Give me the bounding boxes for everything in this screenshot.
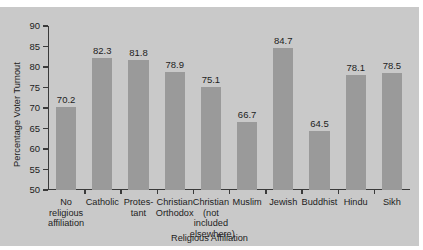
x-tick — [84, 189, 85, 194]
y-tick-label: 65 — [4, 124, 40, 134]
x-axis-label: Religious Affiliation — [0, 233, 419, 243]
x-tick — [338, 189, 339, 194]
y-tick — [43, 189, 48, 190]
bar-value-label: 84.7 — [261, 36, 305, 46]
bar[interactable] — [346, 75, 366, 190]
bar[interactable] — [309, 131, 329, 190]
x-category-label: Sikh — [371, 197, 413, 208]
bar[interactable] — [382, 73, 402, 190]
x-tick — [301, 189, 302, 194]
bar[interactable] — [201, 87, 221, 190]
bar[interactable] — [165, 72, 185, 190]
x-tick — [157, 189, 158, 194]
bar-value-label: 78.5 — [370, 61, 414, 71]
bar-value-label: 75.1 — [189, 75, 233, 85]
bar[interactable] — [273, 48, 293, 190]
y-tick — [43, 46, 48, 47]
y-tick-label: 85 — [4, 42, 40, 52]
x-tick — [374, 189, 375, 194]
y-tick-label: 75 — [4, 83, 40, 93]
y-axis-line — [48, 26, 49, 190]
y-tick — [43, 107, 48, 108]
bar[interactable] — [128, 60, 148, 190]
chart-figure: Percentage Voter Turnout 505560657075808… — [0, 7, 419, 246]
y-tick — [43, 128, 48, 129]
y-tick — [43, 169, 48, 170]
y-tick-label: 60 — [4, 144, 40, 154]
bar-value-label: 64.5 — [298, 119, 342, 129]
y-tick-label: 50 — [4, 185, 40, 195]
bar[interactable] — [56, 107, 76, 190]
bar-value-label: 70.2 — [44, 95, 88, 105]
y-tick-label: 70 — [4, 103, 40, 113]
bar-value-label: 81.8 — [117, 48, 161, 58]
bar[interactable] — [237, 122, 257, 190]
y-tick — [43, 148, 48, 149]
y-tick — [43, 66, 48, 67]
y-tick — [43, 87, 48, 88]
y-tick-label: 80 — [4, 62, 40, 72]
x-tick — [193, 189, 194, 194]
x-tick — [120, 189, 121, 194]
y-tick — [43, 25, 48, 26]
bar[interactable] — [92, 58, 112, 190]
bar-value-label: 78.9 — [153, 60, 197, 70]
y-tick-label: 90 — [4, 21, 40, 31]
x-tick — [265, 189, 266, 194]
plot-area: 505560657075808590 70.282.381.878.975.16… — [48, 26, 410, 190]
bar-value-label: 66.7 — [225, 110, 269, 120]
x-tick — [229, 189, 230, 194]
y-tick-label: 55 — [4, 165, 40, 175]
